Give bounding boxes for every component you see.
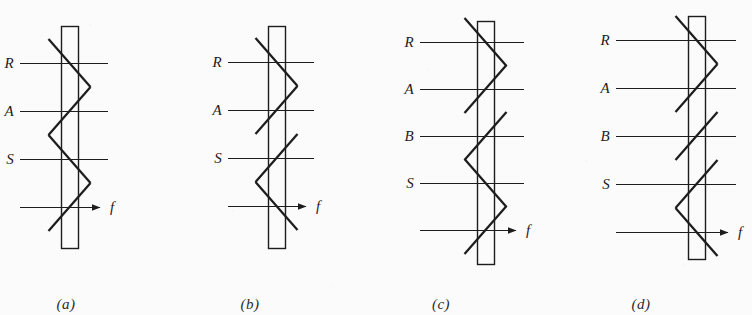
level-label-b: B — [405, 128, 414, 145]
vertical-bar — [269, 27, 286, 249]
diagram-panels — [20, 16, 736, 265]
level-label-r: R — [5, 55, 14, 72]
panel-caption: (a) — [57, 296, 76, 313]
level-label-s: S — [602, 176, 610, 193]
diagram-panel — [616, 16, 736, 260]
vertical-bar — [62, 27, 79, 249]
level-label-a: A — [601, 80, 610, 97]
level-label-a: A — [405, 81, 414, 98]
level-label-b: B — [601, 128, 610, 145]
level-label-a: A — [5, 103, 14, 120]
diagram-panel — [20, 27, 108, 249]
axis-label-f: f — [738, 224, 742, 241]
level-label-r: R — [601, 32, 610, 49]
axis-label-f: f — [526, 222, 530, 239]
axis-label-f: f — [110, 199, 114, 216]
panel-caption: (c) — [432, 296, 450, 313]
level-label-a: A — [213, 102, 222, 119]
panel-caption: (d) — [632, 296, 651, 313]
level-label-r: R — [405, 34, 414, 51]
level-label-s: S — [6, 151, 14, 168]
level-label-s: S — [214, 150, 222, 167]
diagram-panel — [228, 27, 314, 249]
level-label-r: R — [213, 54, 222, 71]
diagram-panel — [420, 18, 524, 265]
level-label-s: S — [406, 175, 414, 192]
figure-canvas — [0, 0, 752, 315]
panel-caption: (b) — [241, 296, 260, 313]
vertical-bar — [689, 17, 706, 260]
axis-label-f: f — [316, 198, 320, 215]
